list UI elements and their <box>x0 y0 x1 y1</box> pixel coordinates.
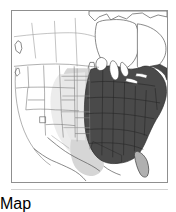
north-america-map <box>12 11 167 182</box>
figure-baseline-rule <box>11 189 168 190</box>
lake-superior <box>96 57 107 70</box>
screenshot-root: Map of North America Choropleth map of t… <box>0 0 176 195</box>
map-figure-frame <box>11 10 168 183</box>
